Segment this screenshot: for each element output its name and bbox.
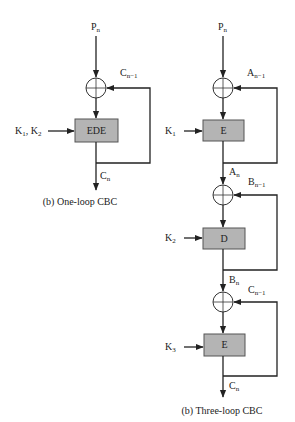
stage-2: D K2 Bn−1 Bn xyxy=(165,176,277,291)
three-loop-cbc: Pn E K1 An−1 An xyxy=(165,21,277,417)
xor-icon xyxy=(213,185,233,205)
caption-three-loop: (b) Three-loop CBC xyxy=(182,405,263,417)
feedback-label-bn-1: Bn−1 xyxy=(248,176,266,189)
stage-3: E K3 Cn−1 Cn xyxy=(165,284,277,397)
output-label-bn: Bn xyxy=(229,274,240,287)
stage-1: E K1 An−1 An xyxy=(165,67,277,184)
xor-icon xyxy=(213,78,233,98)
output-label-an: An xyxy=(229,166,240,179)
input-label-pn: Pn xyxy=(218,21,228,34)
feedback-label-an-1: An−1 xyxy=(247,67,266,80)
xor-icon xyxy=(213,292,233,312)
output-label-cn: Cn xyxy=(100,170,111,183)
input-label-pn: Pn xyxy=(91,21,101,34)
key-label-k1-k2: K1, K2 xyxy=(15,125,42,138)
cbc-diagram: Pn EDE K1, K2 Cn Cn−1 (b) One-loop CBC P… xyxy=(0,0,295,422)
block-d-label: D xyxy=(220,233,227,244)
block-e1-label: E xyxy=(220,125,226,136)
block-ede-label: EDE xyxy=(87,125,106,136)
caption-one-loop: (b) One-loop CBC xyxy=(43,196,118,208)
xor-icon xyxy=(86,78,106,98)
one-loop-cbc: Pn EDE K1, K2 Cn Cn−1 (b) One-loop CBC xyxy=(15,21,150,208)
output-label-cn: Cn xyxy=(229,380,240,393)
key-label-k1: K1 xyxy=(165,125,176,138)
key-label-k3: K3 xyxy=(165,341,176,354)
key-label-k2: K2 xyxy=(165,232,176,245)
feedback-label-cn-1: Cn−1 xyxy=(120,67,138,80)
feedback-label-cn-1: Cn−1 xyxy=(248,284,266,297)
block-e3-label: E xyxy=(221,339,227,350)
